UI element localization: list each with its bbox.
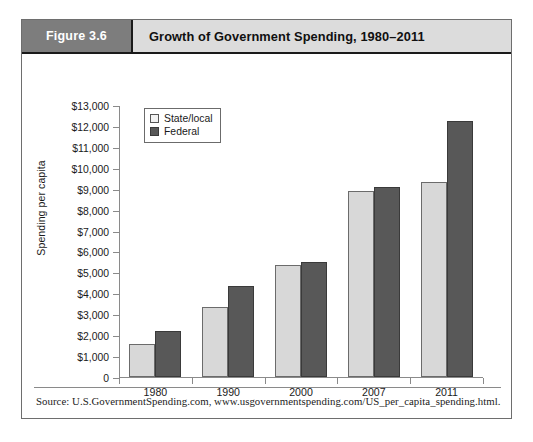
- source-note: Source: U.S.GovernmentSpending.com, www.…: [36, 395, 506, 407]
- bar-state-local-2000: [275, 265, 301, 377]
- figure-title: Growth of Government Spending, 1980–2011: [133, 29, 425, 44]
- y-axis-tick: [113, 357, 119, 358]
- y-axis-tick-label: $8,000: [77, 205, 109, 216]
- y-axis-line: [119, 106, 120, 378]
- legend-swatch-state-local-icon: [150, 114, 159, 123]
- y-axis-tick-label: $3,000: [77, 310, 109, 321]
- figure-number-label: Figure 3.6: [22, 20, 131, 52]
- figure-header: Figure 3.6 Growth of Government Spending…: [22, 20, 511, 54]
- source-divider: [34, 387, 501, 388]
- y-axis-tick: [113, 106, 119, 107]
- chart-area: Spending per capita $13,000$12,000$11,00…: [22, 54, 511, 386]
- y-axis-tick-label: $1,000: [77, 352, 109, 363]
- legend-swatch-federal-icon: [150, 127, 159, 136]
- x-axis-tick: [265, 378, 266, 384]
- bar-federal-1980: [155, 331, 181, 377]
- y-axis-tick: [113, 211, 119, 212]
- y-axis-tick-label: $9,000: [77, 184, 109, 195]
- y-axis-tick-label: $5,000: [77, 268, 109, 279]
- bar-state-local-1980: [129, 344, 155, 377]
- figure-container: Figure 3.6 Growth of Government Spending…: [21, 19, 512, 419]
- legend-label-state-local: State/local: [164, 113, 213, 124]
- y-axis-tick-label: 0: [103, 373, 109, 384]
- x-axis-tick: [337, 378, 338, 384]
- bar-state-local-2011: [421, 182, 447, 377]
- y-axis-tick: [113, 315, 119, 316]
- y-axis-tick: [113, 148, 119, 149]
- y-axis-tick-label: $6,000: [77, 247, 109, 258]
- y-axis-tick: [113, 190, 119, 191]
- plot-area: $13,000$12,000$11,000$10,000$9,000$8,000…: [119, 106, 483, 378]
- y-axis-tick: [113, 252, 119, 253]
- y-axis-tick-label: $2,000: [77, 331, 109, 342]
- x-axis-line: [119, 377, 483, 378]
- bar-state-local-2007: [348, 191, 374, 377]
- x-axis-tick: [483, 378, 484, 384]
- chart-legend: State/local Federal: [144, 108, 221, 143]
- y-axis-title: Spending per capita: [35, 138, 47, 278]
- y-axis-tick-label: $7,000: [77, 226, 109, 237]
- y-axis-tick: [113, 169, 119, 170]
- y-axis-tick: [113, 294, 119, 295]
- bar-federal-2000: [301, 262, 327, 377]
- x-axis-tick: [192, 378, 193, 384]
- y-axis-tick-label: $12,000: [71, 121, 109, 132]
- bar-federal-2007: [374, 187, 400, 377]
- y-axis-tick: [113, 232, 119, 233]
- legend-item-federal: Federal: [150, 125, 213, 138]
- y-axis-tick-label: $4,000: [77, 289, 109, 300]
- bar-federal-1990: [228, 286, 254, 377]
- legend-item-state-local: State/local: [150, 112, 213, 125]
- y-axis-tick-label: $10,000: [71, 163, 109, 174]
- y-axis-tick-label: $11,000: [72, 142, 109, 153]
- y-axis-tick: [113, 127, 119, 128]
- legend-label-federal: Federal: [164, 126, 199, 137]
- figure-title-cell: Growth of Government Spending, 1980–2011: [131, 20, 511, 52]
- bar-federal-2011: [447, 121, 473, 377]
- x-axis-tick: [119, 378, 120, 384]
- x-axis-tick: [410, 378, 411, 384]
- y-axis-tick-label: $13,000: [71, 101, 109, 112]
- y-axis-tick: [113, 336, 119, 337]
- y-axis-tick: [113, 273, 119, 274]
- bar-state-local-1990: [202, 307, 228, 377]
